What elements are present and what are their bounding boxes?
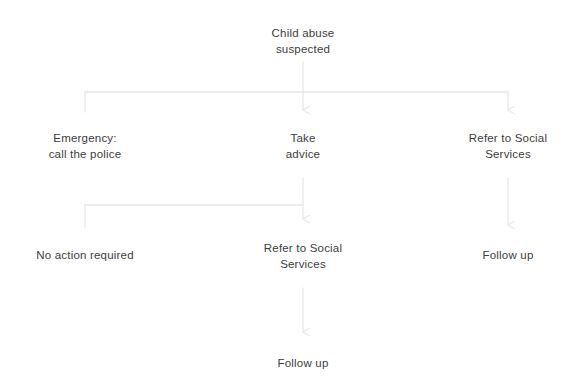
connector-lines xyxy=(0,0,578,390)
node-take-advice: Take advice xyxy=(223,130,383,162)
node-refer-social-services-2: Refer to Social Services xyxy=(233,240,373,272)
node-follow-up-right: Follow up xyxy=(438,247,578,263)
node-root: Child abuse suspected xyxy=(223,25,383,57)
node-emergency: Emergency: call the police xyxy=(5,130,165,162)
node-no-action-required: No action required xyxy=(0,247,170,263)
node-refer-social-services-1: Refer to Social Services xyxy=(438,130,578,162)
flowchart-diagram: Child abuse suspected Emergency: call th… xyxy=(0,0,578,390)
node-follow-up-bottom: Follow up xyxy=(233,355,373,371)
